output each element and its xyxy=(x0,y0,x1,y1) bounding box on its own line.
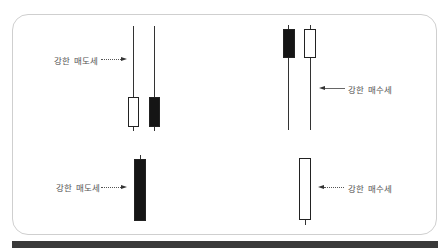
selling-pressure-label: 강한 매도세 xyxy=(54,54,99,66)
candle-lower-wick xyxy=(310,58,311,130)
selling-pressure-label: 강한 매도세 xyxy=(56,181,101,193)
diagram-frame xyxy=(12,14,437,235)
candle-lower-wick xyxy=(154,127,155,131)
candle-upper-wick xyxy=(154,26,155,98)
dotted-leader-line xyxy=(101,59,121,60)
arrow-right-icon xyxy=(121,57,127,61)
candle-black-body xyxy=(283,29,295,58)
buying-pressure-label: 강한 매수세 xyxy=(348,83,393,95)
candle-white-body xyxy=(304,29,316,58)
bottom-dark-bar xyxy=(12,241,438,248)
candle-black-body xyxy=(134,159,146,221)
candle-lower-wick xyxy=(305,220,306,225)
dotted-leader-line xyxy=(101,187,121,188)
leader-line xyxy=(325,88,345,89)
dotted-leader-line xyxy=(324,187,344,188)
candle-white-body xyxy=(299,158,311,220)
candle-lower-wick xyxy=(288,58,289,130)
candle-lower-wick xyxy=(133,127,134,131)
arrow-right-icon xyxy=(121,185,127,189)
candle-upper-wick xyxy=(133,26,134,98)
candle-black-body xyxy=(149,97,160,127)
candle-white-body xyxy=(128,97,139,127)
buying-pressure-label: 강한 매수세 xyxy=(348,182,393,194)
